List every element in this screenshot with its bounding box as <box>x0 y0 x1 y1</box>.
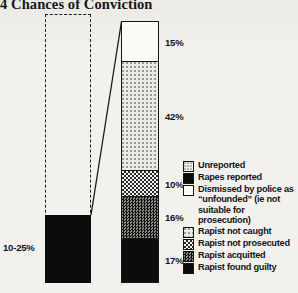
legend-item-acquitted: Rapist acquitted <box>183 250 296 262</box>
segment-label-10: 10% <box>165 178 183 189</box>
legend-item-not-prosecuted: Rapist not prosecuted <box>183 238 296 250</box>
segment-label-16: 16% <box>165 212 183 223</box>
dismissed-swatch-icon <box>183 185 194 196</box>
rapes-reported-swatch-icon <box>183 173 194 184</box>
legend-label-rapes-reported: Rapes reported <box>198 172 262 182</box>
legend-item-rapes-reported: Rapes reported <box>183 172 296 184</box>
segment-rapist-acquitted: 16% <box>122 196 158 238</box>
legend-item-found-guilty: Rapist found guilty <box>183 262 296 274</box>
legend-item-unreported: Unreported <box>183 160 296 172</box>
estimate-bar-reported-fill <box>45 215 91 283</box>
found-guilty-swatch-icon <box>183 263 194 274</box>
segment-rapist-found-guilty: 17% <box>122 238 158 282</box>
estimate-bar-percent-label: 10-25% <box>3 242 35 253</box>
unreported-swatch-icon <box>183 161 194 172</box>
not-caught-swatch-icon <box>183 227 194 238</box>
legend-item-dismissed: Dismissed by police as “unfounded” (ie n… <box>183 184 296 226</box>
acquitted-swatch-icon <box>183 251 194 262</box>
segment-rapist-not-caught: 42% <box>122 61 158 170</box>
segment-label-15: 15% <box>165 36 183 47</box>
chart-page: 4 Chances of Conviction 10-25% 15% 42% 1… <box>0 0 298 293</box>
legend-item-not-caught: Rapist not caught <box>183 226 296 238</box>
chart-title: 4 Chances of Conviction <box>0 0 153 13</box>
breakdown-stacked-bar: 15% 42% 10% 16% 17% <box>121 21 159 283</box>
not-prosecuted-swatch-icon <box>183 239 194 250</box>
chart-legend: Unreported Rapes reported Dismissed by p… <box>183 160 296 274</box>
segment-rapist-not-prosecuted: 10% <box>122 170 158 196</box>
legend-label-not-prosecuted: Rapist not prosecuted <box>198 238 290 248</box>
legend-label-not-caught: Rapist not caught <box>198 226 271 236</box>
legend-label-acquitted: Rapist acquitted <box>198 250 265 260</box>
legend-label-unreported: Unreported <box>198 160 245 170</box>
segment-dismissed-by-police: 15% <box>122 22 158 61</box>
segment-label-42: 42% <box>165 111 183 122</box>
legend-label-dismissed: Dismissed by police as “unfounded” (ie n… <box>198 184 296 226</box>
legend-label-found-guilty: Rapist found guilty <box>198 262 276 272</box>
segment-label-17: 17% <box>165 255 183 266</box>
